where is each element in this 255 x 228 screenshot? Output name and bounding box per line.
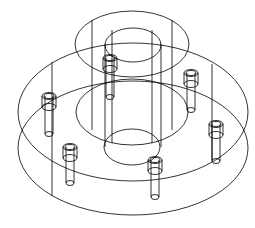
- bolt-head-inner: [65, 145, 75, 150]
- bolt-head-bottom: [184, 81, 198, 88]
- bolt-head-bottom: [42, 104, 56, 111]
- bolt-head-bottom: [63, 155, 77, 162]
- bolt-head-inner: [211, 122, 221, 127]
- bolt: [184, 70, 198, 113]
- bolt-head-bottom: [148, 168, 162, 175]
- hub-inner-top: [105, 28, 161, 62]
- bolt: [63, 144, 77, 186]
- flange-bottom-ellipse: [18, 81, 248, 215]
- bolt: [148, 157, 162, 200]
- bolt-end: [151, 195, 159, 200]
- hub: [75, 11, 189, 165]
- bolt-head-inner: [105, 56, 115, 61]
- bolt-end: [66, 181, 74, 186]
- hub-outer-bottom: [76, 79, 188, 145]
- flange-top-ellipse: [18, 43, 248, 181]
- bolt-end: [106, 95, 114, 100]
- bolt-head-inner: [44, 94, 54, 99]
- bolt: [209, 121, 223, 164]
- bolts: [42, 55, 223, 200]
- flange-hub-wireframe: [0, 0, 255, 228]
- bolt-head-bottom: [209, 132, 223, 139]
- bolt-head-inner: [186, 71, 196, 76]
